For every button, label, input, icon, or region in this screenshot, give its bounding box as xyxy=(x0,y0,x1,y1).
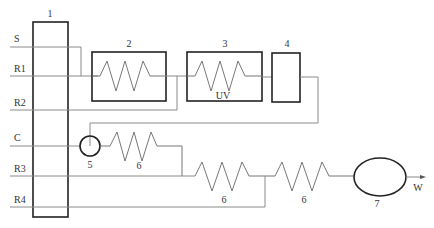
unit-4-label: 4 xyxy=(285,38,290,49)
unit-4-block xyxy=(272,53,300,102)
unit-3-uv-label: UV xyxy=(216,90,231,101)
unit-1-block xyxy=(33,22,68,217)
stream-r3-label: R3 xyxy=(14,163,26,174)
arrow-right-icon xyxy=(420,175,426,179)
unit-3-label: 3 xyxy=(223,38,228,49)
process-flow-diagram: 1 S R1 R2 C R3 R4 2 3 UV 4 5 6 6 6 7 xyxy=(0,0,434,228)
unit-6a-label: 6 xyxy=(137,160,142,171)
unit-6c-coil xyxy=(275,162,354,191)
stream-r4-line xyxy=(10,176,265,207)
stream-r2-label: R2 xyxy=(14,97,26,108)
unit-6c-label: 6 xyxy=(302,194,307,205)
stream-w-label: W xyxy=(413,182,423,193)
unit-6b-coil xyxy=(195,162,275,191)
stream-r1-label: R1 xyxy=(14,63,26,74)
unit-2-label: 2 xyxy=(127,38,132,49)
unit-3-coil xyxy=(187,61,262,91)
stream-r2-line xyxy=(10,76,177,110)
unit-6b-label: 6 xyxy=(222,194,227,205)
unit-7-label: 7 xyxy=(375,198,380,209)
stream-r4-label: R4 xyxy=(14,194,26,205)
stream-s-label: S xyxy=(14,33,20,44)
unit-2-coil xyxy=(92,61,166,91)
return-line-4-5 xyxy=(90,77,318,146)
stream-c-label: C xyxy=(14,132,21,143)
unit-5-label: 5 xyxy=(88,159,93,170)
unit-1-label: 1 xyxy=(48,8,53,19)
unit-7-vessel xyxy=(354,158,406,196)
